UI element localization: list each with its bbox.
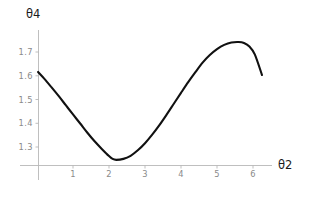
- y-tick-label-1.7: 1.7: [19, 47, 33, 57]
- y-tick-label-1.6: 1.6: [19, 71, 33, 81]
- y-axis-title: θ4: [26, 7, 40, 21]
- y-tick-label-1.3: 1.3: [19, 142, 33, 152]
- plot-container: 1.7 1.6 1.5 1.4 1.3 1 2 3 4 5 6 θ4 θ2: [0, 0, 310, 197]
- x-tick-label-3: 3: [142, 169, 148, 179]
- x-tick-labels: 1 2 3 4 5 6: [70, 169, 256, 179]
- x-tick-label-4: 4: [178, 169, 184, 179]
- data-curve-theta4: [38, 42, 262, 160]
- y-tick-label-1.5: 1.5: [19, 95, 33, 105]
- y-tick-label-1.4: 1.4: [19, 118, 33, 128]
- x-axis-title: θ2: [278, 158, 292, 172]
- x-tick-label-1: 1: [70, 169, 76, 179]
- x-tick-label-6: 6: [250, 169, 256, 179]
- x-tick-label-2: 2: [106, 169, 112, 179]
- y-tick-labels: 1.7 1.6 1.5 1.4 1.3: [19, 47, 33, 152]
- theta4-vs-theta2-chart: 1.7 1.6 1.5 1.4 1.3 1 2 3 4 5 6 θ4 θ2: [0, 0, 310, 197]
- x-tick-label-5: 5: [214, 169, 220, 179]
